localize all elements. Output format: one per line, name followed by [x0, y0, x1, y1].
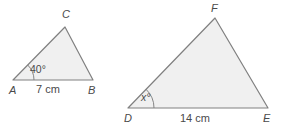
- vertex-label-e: E: [263, 112, 271, 124]
- triangle-abc-shape: [13, 27, 93, 80]
- vertex-label-c: C: [62, 8, 70, 20]
- side-length-label-de: 14 cm: [180, 112, 210, 124]
- vertex-label-b: B: [88, 84, 95, 96]
- angle-label-40-degrees: 40°: [30, 63, 46, 75]
- vertex-label-d: D: [124, 112, 132, 124]
- side-length-label-ab: 7 cm: [36, 83, 60, 95]
- angle-label-x-degrees: x°: [140, 91, 150, 103]
- triangle-abc-group: 40° A B C 7 cm: [8, 8, 95, 96]
- vertex-label-f: F: [211, 2, 219, 14]
- triangle-def-group: x° D E F 14 cm: [124, 2, 271, 124]
- figure-canvas: 40° A B C 7 cm x° D E F 14 cm: [0, 0, 285, 128]
- vertex-label-a: A: [8, 84, 16, 96]
- geometry-figure: 40° A B C 7 cm x° D E F 14 cm: [0, 0, 285, 128]
